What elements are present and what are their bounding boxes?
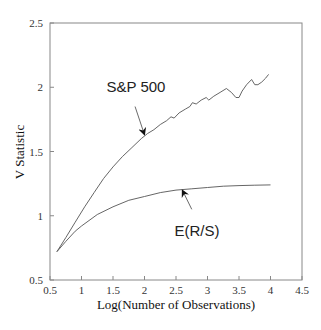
tick-marks: 0.511.522.533.544.50.511.522.5 — [29, 17, 309, 296]
plot-frame — [50, 23, 302, 280]
x-axis-label: Log(Number of Observations) — [97, 297, 255, 312]
x-tick-label: 0.5 — [43, 284, 57, 296]
sp500-annotation-label: S&P 500 — [107, 78, 166, 95]
series-lines — [57, 74, 271, 251]
axes — [50, 23, 302, 280]
x-tick-label: 1 — [79, 284, 85, 296]
series-line-e-r-s- — [57, 185, 271, 252]
x-tick-label: 2.5 — [169, 284, 183, 296]
chart: 0.511.522.533.544.50.511.522.5 Log(Numbe… — [0, 0, 321, 330]
x-tick-label: 1.5 — [106, 284, 120, 296]
series-line-s-p-500 — [57, 74, 269, 251]
annotation-arrow-icon — [135, 107, 144, 135]
annotations — [135, 107, 192, 210]
y-axis-label: V Statistic — [12, 125, 27, 180]
y-tick-label: 0.5 — [29, 274, 43, 286]
x-tick-label: 3.5 — [232, 284, 246, 296]
x-tick-label: 2 — [142, 284, 148, 296]
x-tick-label: 3 — [205, 284, 211, 296]
y-tick-label: 1.5 — [29, 146, 43, 158]
y-tick-label: 2 — [38, 81, 44, 93]
x-tick-label: 4.5 — [295, 284, 309, 296]
ers-annotation-label: E(R/S) — [175, 222, 220, 239]
y-tick-label: 2.5 — [29, 17, 43, 29]
annotation-arrow-icon — [182, 190, 191, 209]
y-tick-label: 1 — [38, 210, 44, 222]
x-tick-label: 4 — [268, 284, 274, 296]
